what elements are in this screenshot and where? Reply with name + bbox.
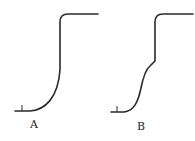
- curve-a: [15, 14, 98, 111]
- curve-b: [111, 14, 193, 112]
- curve-b-path: [111, 14, 193, 112]
- curve-a-path: [15, 14, 98, 111]
- curve-a-label: A: [30, 119, 38, 130]
- curve-b-label: B: [137, 121, 145, 132]
